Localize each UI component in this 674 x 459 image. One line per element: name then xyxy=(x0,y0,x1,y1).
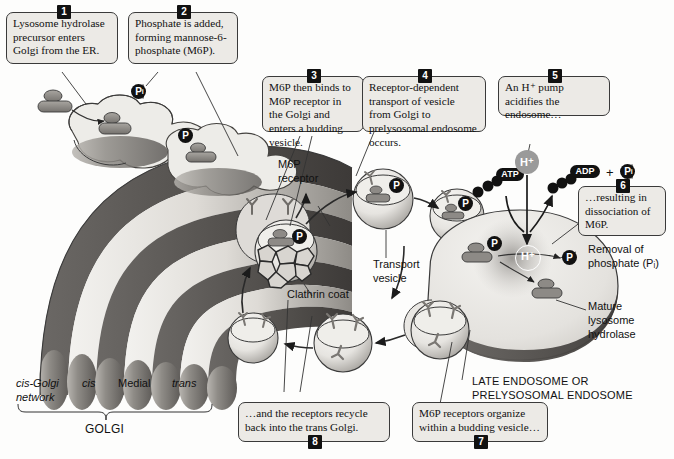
callout-8[interactable]: 8 …and the receptors recycle back into t… xyxy=(238,402,390,442)
callout-4[interactable]: 4 Receptor-dependent transport of vesicl… xyxy=(362,76,486,132)
proton-inside-token: H⁺ xyxy=(515,245,541,271)
medial-label: Medial xyxy=(118,377,150,391)
hydrolase-precursor xyxy=(38,90,72,112)
clathrin-coat-label: Clathrin coat xyxy=(287,288,349,302)
phosphate-token-transport-vesicle-2: P xyxy=(458,196,473,211)
phosphate-token-released: P xyxy=(562,250,577,265)
callout-4-badge: 4 xyxy=(418,69,432,83)
proton-outside-token: H⁺ xyxy=(515,150,539,174)
removal-of-phosphate-label: Removal of phosphate (Pᵢ) xyxy=(588,243,659,271)
mature-lysosome-hydrolase-label: Mature lysosome hydrolase xyxy=(588,300,636,341)
transport-vesicle-label: Transport vesicle xyxy=(373,258,420,286)
recycling-vesicle-budding xyxy=(411,301,469,359)
callout-3-text: M6P then binds to M6P receptor in the Go… xyxy=(269,81,357,149)
callout-7[interactable]: 7 M6P receptors organize within a buddin… xyxy=(412,402,548,442)
callout-2-badge: 2 xyxy=(177,5,191,19)
callout-3-badge: 3 xyxy=(307,69,321,83)
phosphate-token-clathrin-vesicle: P xyxy=(292,229,307,244)
phosphate-token-golgi: Pi xyxy=(131,84,146,99)
late-endosome-label: LATE ENDOSOME OR PRELYSOSOMAL ENDOSOME xyxy=(472,375,633,403)
adp-label: ADP xyxy=(570,165,600,178)
transport-vesicle-1 xyxy=(353,169,413,229)
callout-2-text: Phosphate is added, forming mannose-6-ph… xyxy=(135,17,231,58)
recycling-vesicle-transit xyxy=(314,314,372,372)
plus-sign: + xyxy=(606,165,614,181)
callout-6-text: …resulting in dissociation of M6P. xyxy=(585,191,659,232)
phosphate-token-endosome-bound: P xyxy=(487,236,502,251)
free-phosphate-token: Pi xyxy=(620,164,635,179)
trans-label: trans xyxy=(172,377,196,391)
m6p-receptor-label: M6P receptor xyxy=(278,158,318,186)
recycling-vesicle-at-golgi xyxy=(228,313,278,363)
callout-5[interactable]: 5 An H⁺ pump acidifies the endosome… xyxy=(498,76,610,116)
callout-7-badge: 7 xyxy=(474,435,488,449)
removal-line-2: phosphate (Pᵢ) xyxy=(588,257,659,269)
callout-1-text: Lysosome hydrolase precursor enters Golg… xyxy=(13,17,111,58)
callout-6[interactable]: 6 …resulting in dissociation of M6P. xyxy=(578,186,666,236)
callout-5-text: An H⁺ pump acidifies the endosome… xyxy=(505,81,603,122)
callout-3[interactable]: 3 M6P then binds to M6P receptor in the … xyxy=(262,76,364,132)
figure-canvas: 1 Lysosome hydrolase precursor enters Go… xyxy=(0,0,674,459)
callout-8-text: …and the receptors recycle back into the… xyxy=(245,407,383,434)
golgi-bracket-label: GOLGI xyxy=(85,422,124,437)
cis-label: cis xyxy=(82,377,95,391)
removal-line-1: Removal of xyxy=(588,243,644,255)
phosphate-token-transport-vesicle-1: P xyxy=(389,178,404,193)
callout-4-text: Receptor-dependent transport of vesicle … xyxy=(369,81,479,149)
callout-1-badge: 1 xyxy=(57,5,71,19)
callout-1[interactable]: 1 Lysosome hydrolase precursor enters Go… xyxy=(6,12,118,64)
callout-6-badge: 6 xyxy=(616,179,630,193)
callout-8-badge: 8 xyxy=(308,435,322,449)
callout-7-text: M6P receptors organize within a budding … xyxy=(419,407,541,434)
callout-5-badge: 5 xyxy=(548,69,562,83)
cis-golgi-network-label: cis-Golgi network xyxy=(16,377,59,405)
callout-2[interactable]: 2 Phosphate is added, forming mannose-6-… xyxy=(128,12,238,64)
phosphate-token-cisterna: P xyxy=(178,128,193,143)
